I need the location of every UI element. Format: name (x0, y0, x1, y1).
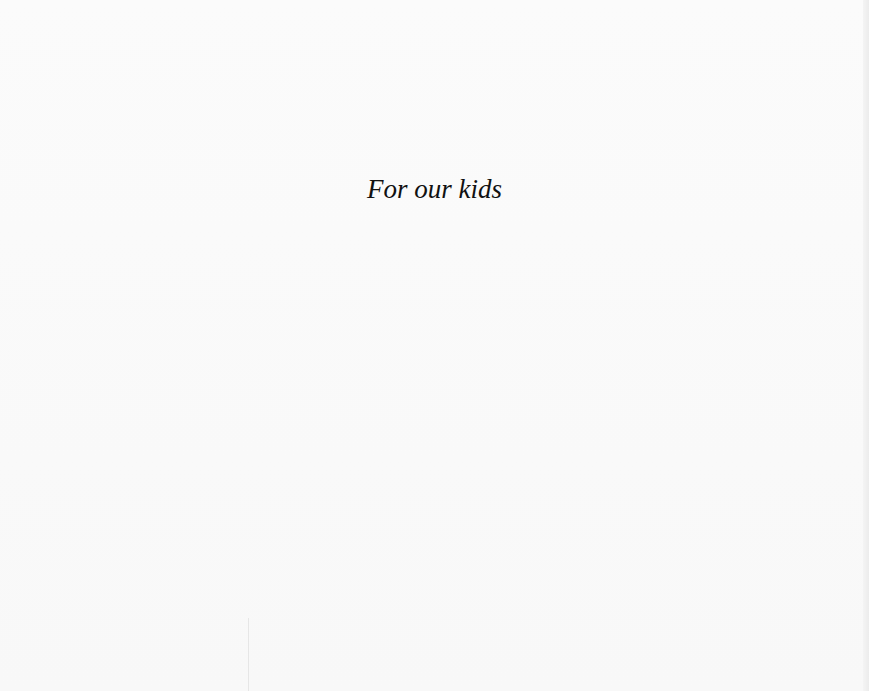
page-edge (863, 0, 869, 691)
scan-artifact-line (248, 618, 249, 691)
dedication-text: For our kids (0, 174, 869, 205)
book-page: For our kids (0, 0, 869, 691)
